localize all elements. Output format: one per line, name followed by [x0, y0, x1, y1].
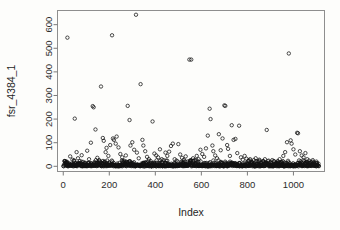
y-tick-label: 200	[43, 111, 54, 127]
y-tick-label: 600	[43, 17, 54, 33]
y-tick-label: 100	[43, 135, 54, 151]
x-tick-label: 400	[147, 179, 163, 190]
scatter-plot-figure: 0100200300400500600 02004006008001000 fs…	[0, 0, 340, 230]
x-tick-label: 0	[61, 179, 66, 190]
x-axis-title: Index	[178, 206, 204, 218]
y-axis-title: fsr_4384_1	[5, 65, 17, 118]
y-tick-label: 500	[43, 40, 54, 56]
x-tick-label: 1000	[283, 179, 304, 190]
x-tick-label: 600	[193, 179, 209, 190]
y-tick-label: 400	[43, 64, 54, 80]
x-tick-label: 200	[101, 179, 117, 190]
x-tick-label: 800	[239, 179, 255, 190]
y-tick-label: 0	[43, 164, 54, 169]
plot-canvas: 0100200300400500600 02004006008001000 fs…	[0, 0, 340, 230]
y-tick-label: 300	[43, 88, 54, 104]
